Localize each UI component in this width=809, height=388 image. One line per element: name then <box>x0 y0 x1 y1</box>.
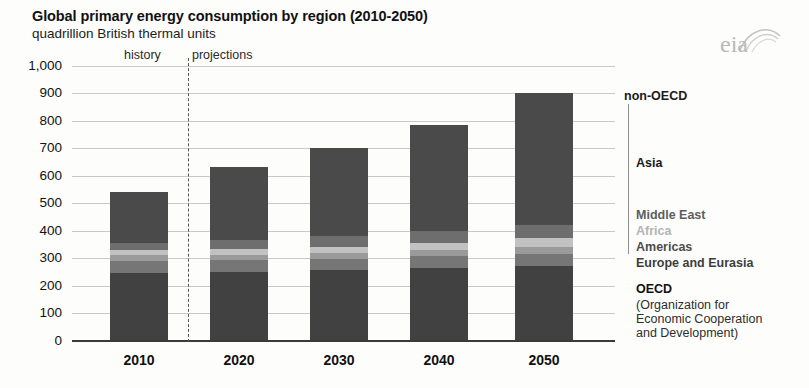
plot-area <box>72 66 615 340</box>
legend-item-middle-east[interactable]: Middle East <box>636 208 705 222</box>
x-axis-labels: 2010 2020 2030 2040 2050 <box>72 352 615 372</box>
bar-segment-asia-2010[interactable] <box>110 192 168 243</box>
bar-segment-oecd-2020[interactable] <box>210 272 268 341</box>
bar-2050[interactable] <box>515 93 573 340</box>
projections-label: projections <box>192 48 252 62</box>
bar-segment-oecd-2040[interactable] <box>410 268 468 340</box>
bar-segment-europe-and-eurasia-2030[interactable] <box>310 259 368 271</box>
bar-segment-africa-2010[interactable] <box>110 250 168 255</box>
legend-item-americas[interactable]: Americas <box>636 240 692 254</box>
y-tick-900: 900 <box>0 85 62 100</box>
bar-segment-europe-and-eurasia-2010[interactable] <box>110 261 168 273</box>
y-tick-600: 600 <box>0 168 62 183</box>
legend-item-europe-and-eurasia[interactable]: Europe and Eurasia <box>636 256 753 270</box>
chart-title: Global primary energy consumption by reg… <box>32 8 428 24</box>
y-tick-700: 700 <box>0 140 62 155</box>
x-tick-2010: 2010 <box>109 352 169 368</box>
bar-2020[interactable] <box>210 167 268 340</box>
bar-segment-asia-2030[interactable] <box>310 148 368 236</box>
y-tick-300: 300 <box>0 250 62 265</box>
bar-segment-middle-east-2040[interactable] <box>410 231 468 243</box>
y-tick-800: 800 <box>0 113 62 128</box>
eia-wordmark: eia <box>720 32 748 56</box>
bar-segment-africa-2020[interactable] <box>210 249 268 254</box>
bar-segment-europe-and-eurasia-2040[interactable] <box>410 256 468 268</box>
bar-segment-europe-and-eurasia-2050[interactable] <box>515 254 573 266</box>
history-label: history <box>124 48 161 62</box>
legend-item-africa[interactable]: Africa <box>636 224 671 238</box>
bar-2030[interactable] <box>310 148 368 340</box>
non-oecd-bracket <box>628 104 629 254</box>
bar-segment-americas-2020[interactable] <box>210 255 268 260</box>
bar-segment-europe-and-eurasia-2020[interactable] <box>210 260 268 272</box>
bar-segment-oecd-2050[interactable] <box>515 266 573 340</box>
legend-group-non-oecd: non-OECD <box>624 89 687 103</box>
bar-2010[interactable] <box>110 192 168 340</box>
bar-segment-middle-east-2020[interactable] <box>210 240 268 249</box>
bar-segment-americas-2010[interactable] <box>110 255 168 260</box>
bar-segment-africa-2050[interactable] <box>515 238 573 246</box>
y-tick-0: 0 <box>0 333 62 348</box>
x-tick-2030: 2030 <box>309 352 369 368</box>
legend-group-oecd: OECD <box>636 282 672 296</box>
bar-segment-africa-2040[interactable] <box>410 243 468 250</box>
bar-segment-americas-2030[interactable] <box>310 253 368 259</box>
gridline-1000 <box>72 66 615 67</box>
bar-segment-middle-east-2010[interactable] <box>110 243 168 250</box>
oecd-expansion-line-1: (Organization for <box>636 298 729 313</box>
bar-2040[interactable] <box>410 125 468 340</box>
axis-line-zero <box>72 340 615 342</box>
oecd-expansion-line-2: Economic Cooperation <box>636 312 762 327</box>
legend-item-asia[interactable]: Asia <box>636 156 662 170</box>
bar-segment-asia-2040[interactable] <box>410 125 468 231</box>
oecd-expansion-line-3: and Development) <box>636 326 738 341</box>
y-tick-1000: 1,000 <box>0 58 62 73</box>
y-tick-100: 100 <box>0 305 62 320</box>
x-tick-2020: 2020 <box>209 352 269 368</box>
bar-segment-africa-2030[interactable] <box>310 247 368 253</box>
bar-segment-oecd-2030[interactable] <box>310 270 368 340</box>
bar-segment-middle-east-2030[interactable] <box>310 236 368 246</box>
eia-logo: eia <box>718 26 780 60</box>
bar-segment-americas-2050[interactable] <box>515 247 573 254</box>
chart-subtitle: quadrillion British thermal units <box>32 26 216 41</box>
y-tick-400: 400 <box>0 223 62 238</box>
chart-legend: non-OECD Asia Middle East Africa America… <box>622 60 807 360</box>
bar-segment-asia-2020[interactable] <box>210 167 268 240</box>
bar-segment-americas-2040[interactable] <box>410 250 468 257</box>
y-tick-200: 200 <box>0 278 62 293</box>
bar-segment-middle-east-2050[interactable] <box>515 225 573 238</box>
bar-segment-oecd-2010[interactable] <box>110 273 168 340</box>
x-tick-2040: 2040 <box>409 352 469 368</box>
history-projections-divider <box>188 58 189 342</box>
y-tick-500: 500 <box>0 195 62 210</box>
bar-segment-asia-2050[interactable] <box>515 93 573 225</box>
x-tick-2050: 2050 <box>514 352 574 368</box>
